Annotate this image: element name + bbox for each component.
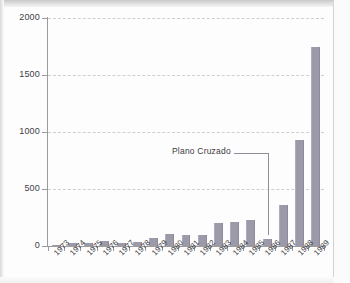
annotation-label: Plano Cruzado	[172, 146, 231, 156]
y-axis-tick-label: 0	[2, 240, 40, 250]
y-axis-labels: 0500100015002000	[0, 0, 40, 283]
scanned-page: 0500100015002000 19731974197519761977197…	[0, 0, 350, 283]
y-axis-tick-label: 1500	[2, 69, 40, 79]
y-axis-tick-label: 1000	[2, 126, 40, 136]
annotation-leader-vertical	[268, 153, 269, 235]
y-axis-tick-label: 2000	[2, 12, 40, 22]
y-axis-tick-label: 500	[2, 183, 40, 193]
bar	[295, 140, 304, 246]
annotation-leader-horizontal	[234, 153, 269, 154]
x-axis-labels: 1973197419751976197719781979198019811982…	[48, 251, 338, 283]
bar	[311, 47, 320, 247]
page-right-margin	[334, 0, 350, 283]
bar-series	[48, 18, 324, 246]
bar-chart: 0500100015002000 19731974197519761977197…	[0, 0, 334, 283]
bar	[279, 205, 288, 246]
